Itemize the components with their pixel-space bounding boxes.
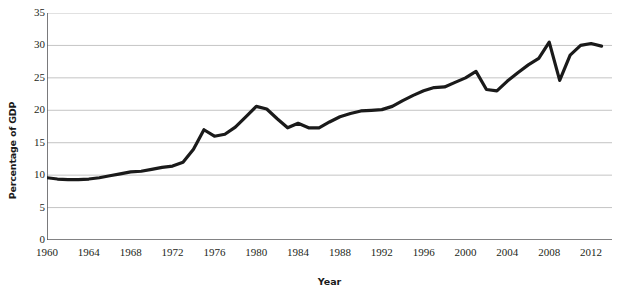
x-axis-title: Year <box>47 276 612 287</box>
y-axis-tick-label: 30 <box>5 39 45 50</box>
x-axis-tick-label: 1984 <box>275 247 321 258</box>
y-axis-tick-label: 20 <box>5 104 45 115</box>
plot-area <box>47 13 612 240</box>
x-axis-tick-label: 1976 <box>191 247 237 258</box>
x-axis-tick-label: 1964 <box>66 247 112 258</box>
y-axis-tick-label: 35 <box>5 7 45 18</box>
x-axis-tick-label: 1980 <box>233 247 279 258</box>
x-axis-tick-label: 1996 <box>401 247 447 258</box>
x-axis-tick-label: 1972 <box>150 247 196 258</box>
x-axis-tick-label: 2000 <box>443 247 489 258</box>
y-axis-tick-label: 5 <box>5 202 45 213</box>
y-axis-tick-label: 0 <box>5 234 45 245</box>
x-axis-tick-label: 1992 <box>359 247 405 258</box>
y-axis-tick-label: 25 <box>5 72 45 83</box>
x-axis-tick-label: 1960 <box>24 247 70 258</box>
data-series-line <box>47 42 602 179</box>
y-axis-tick-label: 15 <box>5 137 45 148</box>
y-axis-tick-label: 10 <box>5 169 45 180</box>
chart-figure: Percentage of GDP 05101520253035 1960196… <box>0 0 628 301</box>
x-axis-tick-label: 1968 <box>108 247 154 258</box>
line-chart-svg <box>47 13 612 240</box>
x-axis-tick-label: 2004 <box>484 247 530 258</box>
x-axis-tick-label: 2008 <box>526 247 572 258</box>
x-axis-tick-label: 1988 <box>317 247 363 258</box>
x-axis-tick-label: 2012 <box>568 247 614 258</box>
